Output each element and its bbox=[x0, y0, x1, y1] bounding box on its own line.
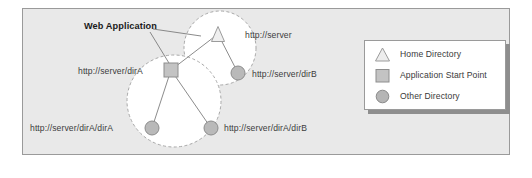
node-dirA_dirB bbox=[204, 121, 218, 135]
node-label-dira-dirb: http://server/dirA/dirB bbox=[224, 124, 307, 133]
triangle-icon bbox=[374, 46, 391, 63]
node-label-dira: http://server/dirA bbox=[78, 67, 143, 76]
square-icon bbox=[374, 67, 391, 84]
node-dirA bbox=[164, 63, 178, 77]
legend-box: Home Directory Application Start Point O… bbox=[364, 40, 506, 110]
web-application-callout-label: Web Application bbox=[84, 22, 157, 31]
circle-icon bbox=[374, 88, 391, 105]
node-label-dira-dira: http://server/dirA/dirA bbox=[30, 124, 113, 133]
node-dirB bbox=[231, 66, 245, 80]
legend-label-home-directory: Home Directory bbox=[400, 49, 461, 59]
node-label-dirb: http://server/dirB bbox=[252, 70, 317, 79]
legend-item-home-directory: Home Directory bbox=[374, 44, 505, 65]
legend-label-other-directory: Other Directory bbox=[400, 91, 460, 101]
diagram-screenshot: Web Application http://server http://ser… bbox=[0, 0, 532, 178]
node-dirA_dirA bbox=[145, 121, 159, 135]
legend-item-other-directory: Other Directory bbox=[374, 86, 505, 107]
node-label-home: http://server bbox=[245, 31, 292, 40]
legend-label-application-start-point: Application Start Point bbox=[400, 70, 487, 80]
legend-item-application-start-point: Application Start Point bbox=[374, 65, 505, 86]
